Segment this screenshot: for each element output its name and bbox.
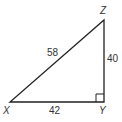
side-label-yz: 40 <box>107 53 119 64</box>
vertex-label-x: X <box>2 105 10 116</box>
right-triangle-diagram: Z X Y 58 40 42 <box>0 0 122 122</box>
vertex-label-y: Y <box>99 105 107 116</box>
triangle-xyz <box>10 20 104 102</box>
side-label-xy: 42 <box>49 105 61 116</box>
vertex-label-z: Z <box>99 5 107 16</box>
side-label-xz: 58 <box>47 47 59 58</box>
right-angle-marker <box>96 94 104 102</box>
